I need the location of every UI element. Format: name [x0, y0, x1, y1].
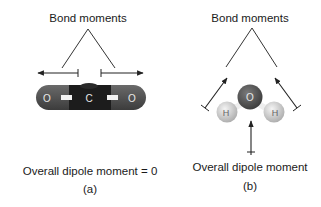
- double-bond-left: [61, 95, 72, 100]
- atom-hydrogen-left: H: [223, 108, 230, 118]
- panel-b: Bond moments H O H Overall dipo: [192, 12, 308, 192]
- panel-label-b: (b): [243, 180, 257, 192]
- panel-a: Bond moments O C O Overall dipole moment…: [23, 12, 158, 195]
- atom-carbon: C: [85, 93, 92, 104]
- atom-oxygen-left: O: [43, 93, 51, 104]
- panel-label-a: (a): [83, 183, 97, 195]
- bond-moments-label-b: Bond moments: [211, 12, 289, 24]
- bond-moment-arrow-right-a: [101, 69, 143, 77]
- bond-moments-pointer-b: [226, 28, 277, 67]
- atom-oxygen: O: [246, 92, 254, 103]
- overall-dipole-arrow: [247, 121, 255, 155]
- bond-moments-label-a: Bond moments: [49, 12, 127, 24]
- bond-moment-arrow-left-a: [38, 69, 78, 77]
- co2-molecule: O C O: [36, 83, 146, 110]
- overall-dipole-caption-b: Overall dipole moment: [192, 161, 308, 173]
- dipole-moment-diagram: Bond moments O C O Overall dipole moment…: [0, 0, 321, 207]
- atom-oxygen-right: O: [128, 93, 136, 104]
- water-molecule: H O H: [217, 85, 285, 123]
- overall-dipole-caption-a: Overall dipole moment = 0: [23, 165, 158, 177]
- double-bond-right: [107, 95, 118, 100]
- atom-hydrogen-right: H: [272, 108, 279, 118]
- bond-moments-pointer-a: [62, 29, 115, 68]
